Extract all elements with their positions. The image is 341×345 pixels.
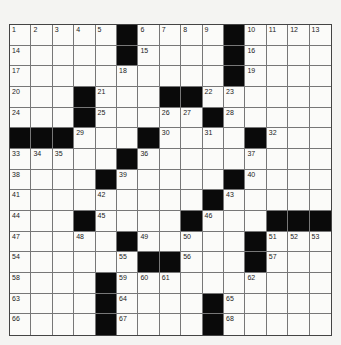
grid-cell[interactable]: 22 — [203, 87, 224, 108]
grid-cell[interactable] — [96, 128, 117, 149]
grid-cell[interactable] — [267, 170, 288, 191]
grid-cell[interactable] — [288, 252, 309, 273]
grid-cell[interactable] — [31, 108, 52, 129]
grid-cell[interactable]: 47 — [10, 232, 31, 253]
grid-cell[interactable]: 30 — [160, 128, 181, 149]
grid-cell[interactable]: 19 — [245, 66, 266, 87]
grid-cell[interactable]: 35 — [53, 149, 74, 170]
grid-cell[interactable] — [74, 252, 95, 273]
grid-cell[interactable] — [288, 46, 309, 67]
grid-cell[interactable] — [53, 190, 74, 211]
grid-cell[interactable] — [160, 149, 181, 170]
grid-cell[interactable] — [288, 170, 309, 191]
grid-cell[interactable] — [160, 46, 181, 67]
grid-cell[interactable] — [288, 294, 309, 315]
grid-cell[interactable] — [224, 273, 245, 294]
grid-cell[interactable]: 17 — [10, 66, 31, 87]
grid-cell[interactable]: 32 — [267, 128, 288, 149]
grid-cell[interactable] — [310, 149, 331, 170]
grid-cell[interactable]: 3 — [53, 25, 74, 46]
grid-cell[interactable]: 52 — [288, 232, 309, 253]
grid-cell[interactable]: 10 — [245, 25, 266, 46]
grid-cell[interactable]: 18 — [117, 66, 138, 87]
grid-cell[interactable]: 63 — [10, 294, 31, 315]
grid-cell[interactable]: 53 — [310, 232, 331, 253]
grid-cell[interactable] — [74, 66, 95, 87]
grid-cell[interactable] — [310, 66, 331, 87]
grid-cell[interactable] — [203, 46, 224, 67]
grid-cell[interactable] — [31, 252, 52, 273]
grid-cell[interactable] — [288, 128, 309, 149]
grid-cell[interactable]: 65 — [224, 294, 245, 315]
grid-cell[interactable] — [203, 66, 224, 87]
grid-cell[interactable] — [96, 232, 117, 253]
grid-cell[interactable] — [160, 232, 181, 253]
grid-cell[interactable]: 27 — [181, 108, 202, 129]
grid-cell[interactable]: 4 — [74, 25, 95, 46]
grid-cell[interactable] — [96, 66, 117, 87]
grid-cell[interactable] — [267, 190, 288, 211]
grid-cell[interactable]: 5 — [96, 25, 117, 46]
grid-cell[interactable]: 26 — [160, 108, 181, 129]
grid-cell[interactable] — [138, 66, 159, 87]
grid-cell[interactable]: 42 — [96, 190, 117, 211]
grid-cell[interactable] — [53, 170, 74, 191]
grid-cell[interactable] — [245, 87, 266, 108]
grid-cell[interactable] — [267, 294, 288, 315]
grid-cell[interactable] — [138, 190, 159, 211]
grid-cell[interactable]: 39 — [117, 170, 138, 191]
grid-cell[interactable] — [288, 149, 309, 170]
grid-cell[interactable] — [245, 211, 266, 232]
grid-cell[interactable] — [181, 66, 202, 87]
grid-cell[interactable]: 60 — [138, 273, 159, 294]
grid-cell[interactable] — [181, 273, 202, 294]
grid-cell[interactable]: 8 — [181, 25, 202, 46]
grid-cell[interactable] — [74, 190, 95, 211]
grid-cell[interactable]: 29 — [74, 128, 95, 149]
grid-cell[interactable] — [181, 294, 202, 315]
grid-cell[interactable] — [31, 170, 52, 191]
grid-cell[interactable] — [31, 314, 52, 335]
grid-cell[interactable] — [288, 314, 309, 335]
grid-cell[interactable] — [53, 252, 74, 273]
grid-cell[interactable]: 21 — [96, 87, 117, 108]
grid-cell[interactable]: 13 — [310, 25, 331, 46]
grid-cell[interactable] — [31, 273, 52, 294]
grid-cell[interactable]: 56 — [181, 252, 202, 273]
grid-cell[interactable]: 68 — [224, 314, 245, 335]
grid-cell[interactable] — [203, 149, 224, 170]
grid-cell[interactable]: 38 — [10, 170, 31, 191]
grid-cell[interactable] — [117, 211, 138, 232]
grid-cell[interactable]: 44 — [10, 211, 31, 232]
grid-cell[interactable]: 31 — [203, 128, 224, 149]
grid-cell[interactable] — [160, 211, 181, 232]
grid-cell[interactable] — [203, 170, 224, 191]
grid-cell[interactable] — [224, 149, 245, 170]
grid-cell[interactable] — [288, 108, 309, 129]
grid-cell[interactable]: 6 — [138, 25, 159, 46]
grid-cell[interactable]: 64 — [117, 294, 138, 315]
grid-cell[interactable]: 40 — [245, 170, 266, 191]
grid-cell[interactable]: 66 — [10, 314, 31, 335]
grid-cell[interactable]: 9 — [203, 25, 224, 46]
grid-cell[interactable] — [288, 190, 309, 211]
grid-cell[interactable] — [267, 149, 288, 170]
grid-cell[interactable] — [96, 46, 117, 67]
grid-cell[interactable] — [310, 273, 331, 294]
grid-cell[interactable] — [160, 190, 181, 211]
grid-cell[interactable]: 37 — [245, 149, 266, 170]
grid-cell[interactable]: 20 — [10, 87, 31, 108]
grid-cell[interactable] — [310, 252, 331, 273]
grid-cell[interactable]: 59 — [117, 273, 138, 294]
grid-cell[interactable]: 2 — [31, 25, 52, 46]
grid-cell[interactable]: 12 — [288, 25, 309, 46]
grid-cell[interactable] — [117, 87, 138, 108]
grid-cell[interactable] — [53, 211, 74, 232]
grid-cell[interactable]: 24 — [10, 108, 31, 129]
grid-cell[interactable] — [160, 294, 181, 315]
grid-cell[interactable]: 16 — [245, 46, 266, 67]
grid-cell[interactable] — [53, 46, 74, 67]
grid-cell[interactable] — [31, 87, 52, 108]
grid-cell[interactable] — [310, 46, 331, 67]
grid-cell[interactable] — [117, 128, 138, 149]
